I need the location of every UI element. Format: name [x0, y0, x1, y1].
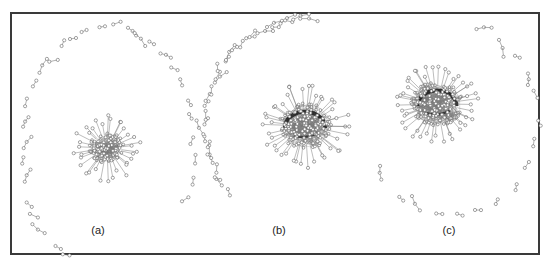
panel-label-b: (b)	[272, 224, 285, 236]
network-panel-c	[378, 26, 542, 218]
panel-label-c: (c)	[443, 224, 456, 236]
panel-label-a: (a)	[91, 224, 104, 236]
network-panel-a	[21, 20, 197, 257]
network-panel-b	[195, 13, 351, 197]
